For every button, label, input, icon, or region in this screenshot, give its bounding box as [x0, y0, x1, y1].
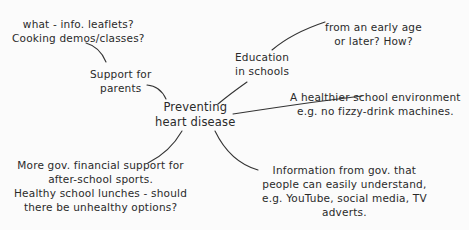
- financial-support-node: More gov. financial support for after-sc…: [14, 158, 187, 214]
- node-text: in schools: [235, 64, 289, 78]
- link-information: [215, 131, 258, 170]
- node-text: adverts.: [262, 205, 427, 219]
- central-text: Preventing: [155, 100, 236, 115]
- node-text: after-school sports.: [14, 172, 187, 186]
- node-text: e.g. YouTube, social media, TV: [262, 191, 427, 205]
- node-text: Support for: [90, 67, 151, 81]
- node-text: parents: [90, 81, 151, 95]
- gov-information-node: Information from gov. that people can ea…: [262, 163, 427, 219]
- node-text: or later? How?: [325, 34, 422, 48]
- node-text: Information from gov. that: [262, 163, 427, 177]
- central-topic-node: Preventing heart disease: [155, 100, 236, 130]
- node-text: Education: [235, 50, 289, 64]
- node-text: what - info. leaflets?: [12, 17, 145, 31]
- node-text: there be unhealthy options?: [14, 200, 187, 214]
- education-in-schools-node: Education in schools: [235, 50, 289, 78]
- node-text: people can easily understand,: [262, 177, 427, 191]
- school-environment-node: A healthier school environment e.g. no f…: [290, 90, 461, 118]
- parents-subtopic: what - info. leaflets? Cooking demos/cla…: [12, 17, 145, 45]
- link-parents-sub: [86, 43, 106, 62]
- link-education-sub: [272, 22, 325, 50]
- node-text: Cooking demos/classes?: [12, 31, 145, 45]
- node-text: e.g. no fizzy-drink machines.: [290, 104, 461, 118]
- node-text: A healthier school environment: [290, 90, 461, 104]
- support-for-parents-node: Support for parents: [90, 67, 151, 95]
- education-subtopic: from an early age or later? How?: [325, 20, 422, 48]
- central-text: heart disease: [155, 115, 236, 130]
- node-text: Healthy school lunches - should: [14, 186, 187, 200]
- node-text: More gov. financial support for: [14, 158, 187, 172]
- node-text: from an early age: [325, 20, 422, 34]
